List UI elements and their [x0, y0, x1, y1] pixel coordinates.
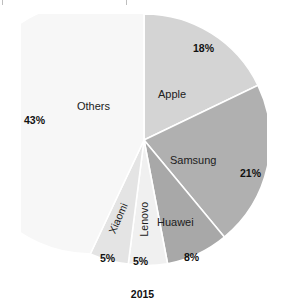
slice-percent-apple: 18%: [193, 43, 214, 54]
slice-percent-others: 43%: [24, 115, 45, 126]
slice-label-others: Others: [77, 101, 110, 112]
slice-percent-huawei: 8%: [184, 252, 199, 263]
slice-label-lenovo: Lenovo: [139, 202, 150, 236]
chart-axis-label-year: 2015: [0, 288, 285, 300]
slice-percent-xiaomi: 5%: [100, 253, 115, 264]
slice-label-samsung: Samsung: [170, 155, 216, 166]
slice-label-apple: Apple: [158, 89, 186, 100]
slice-label-huawei: Huawei: [157, 217, 194, 228]
pie-chart: Apple 18% Samsung 21% Huawei 8% Lenovo 5…: [0, 0, 285, 305]
slice-percent-samsung: 21%: [240, 168, 261, 179]
slice-percent-lenovo: 5%: [133, 256, 148, 267]
